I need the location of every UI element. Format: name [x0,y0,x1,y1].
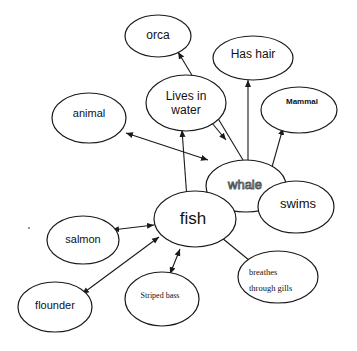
node-fish: fish [154,191,236,247]
node-striped-bass: Striped bass [125,272,199,326]
edge-whale-mammal [272,128,283,167]
node-label: Mammal [286,97,318,106]
edge-whale-animal [126,133,208,160]
node-label-line1: breathes [249,267,277,277]
concept-map: orca Has hair Lives in water animal Mamm… [0,0,357,351]
node-has-hair: Has hair [213,36,293,80]
node-label-line2: through gills [249,283,292,293]
node-breathes-through-gills: breathes through gills [238,251,318,303]
node-orca: orca [125,15,191,57]
node-label: swims [280,196,317,211]
node-swims: swims [258,181,334,233]
node-animal: animal [52,93,126,143]
node-label: whale [227,177,262,192]
node-mammal: Mammal [261,87,337,133]
node-salmon: salmon [47,216,119,264]
node-flounder: flounder [18,282,92,332]
node-label: fish [180,209,206,228]
node-label: Has hair [231,47,276,61]
edge-fish-salmon [112,225,154,230]
node-label: orca [146,28,170,42]
node-label: Striped bass [141,291,180,300]
node-label-line1: Lives in [166,89,207,103]
edge-fish-striped-bass [170,249,180,274]
node-label: animal [73,107,105,119]
stray-dot [28,227,30,229]
node-label-line2: water [170,103,200,117]
node-lives-in-water: Lives in water [146,75,226,131]
node-label: salmon [65,233,100,245]
edge-fish-lives-in-water [182,130,187,199]
node-label: flounder [35,299,75,311]
